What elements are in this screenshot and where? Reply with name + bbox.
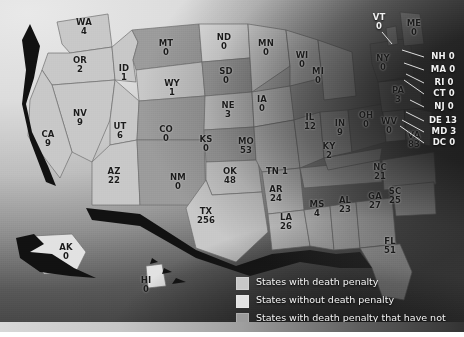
bottom-edge-strip bbox=[0, 322, 464, 337]
callout-label-CT: CT 0 bbox=[433, 89, 454, 98]
leader-VT bbox=[382, 32, 392, 44]
legend-swatch-death-penalty bbox=[236, 277, 249, 290]
callout-label-RI: RI 0 bbox=[435, 78, 454, 87]
callout-label-MA: MA 0 bbox=[431, 65, 455, 74]
legend-label-death-penalty: States with death penalty bbox=[256, 276, 378, 287]
leader-NJ bbox=[410, 100, 424, 107]
legend-label-no-death-penalty: States without death penalty bbox=[256, 294, 394, 305]
leader-DE bbox=[406, 112, 424, 121]
leader-MA bbox=[404, 63, 424, 70]
callout-label-NJ: NJ 0 bbox=[434, 102, 454, 111]
leader-CT bbox=[404, 80, 424, 94]
legend-item-no-death-penalty: States without death penalty bbox=[236, 294, 451, 308]
legend-swatch-no-death-penalty bbox=[236, 295, 249, 308]
callout-label-DC: DC 0 bbox=[433, 138, 456, 147]
callout-label-MD: MD 3 bbox=[432, 127, 457, 136]
leader-DC bbox=[400, 126, 424, 143]
leader-NH bbox=[402, 50, 424, 57]
legend-item-death-penalty: States with death penalty bbox=[236, 276, 451, 290]
map-figure: WA4 OR2 ID1 MT0 WY1 ND0 SD0 NE3 MN0 WI0 … bbox=[0, 0, 464, 337]
leader-RI bbox=[406, 74, 424, 83]
callout-label-NH: NH 0 bbox=[431, 52, 455, 61]
callout-label-DE: DE 13 bbox=[429, 116, 457, 125]
